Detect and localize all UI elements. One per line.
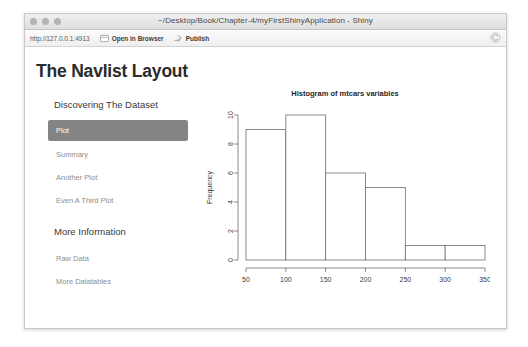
screenshot-root: ~/Desktop/Book/Chapter-4/myFirstShinyApp…	[0, 0, 528, 347]
x-tick-label: 250	[399, 276, 411, 283]
x-tick-label: 350	[479, 276, 490, 283]
browser-window-icon	[100, 34, 109, 43]
navlist-section-header-more-information: More Information	[48, 212, 188, 247]
y-tick-label: 6	[227, 171, 234, 175]
y-tick-label: 8	[227, 142, 234, 146]
window-titlebar: ~/Desktop/Book/Chapter-4/myFirstShinyApp…	[25, 14, 506, 30]
window-title: ~/Desktop/Book/Chapter-4/myFirstShinyApp…	[25, 16, 506, 25]
app-toolbar: http://127.0.0.1:4913 Open in Browser Pu…	[25, 30, 506, 47]
refresh-button[interactable]	[490, 32, 501, 43]
x-tick-label: 50	[242, 276, 250, 283]
refresh-icon	[490, 32, 501, 43]
histogram-bar	[326, 173, 366, 260]
sidebar-item-raw-data[interactable]: Raw Data	[48, 247, 188, 270]
page-title: The Navlist Layout	[36, 61, 188, 82]
publish-arrow-icon	[174, 34, 183, 43]
histogram-bar	[286, 115, 326, 260]
sidebar-item-summary[interactable]: Summary	[48, 143, 188, 166]
publish-label: Publish	[186, 35, 209, 42]
x-tick-label: 150	[320, 276, 332, 283]
x-tick-label: 100	[280, 276, 292, 283]
sidebar-item-even-a-third-plot[interactable]: Even A Third Plot	[48, 189, 188, 212]
open-in-browser-button[interactable]: Open in Browser	[100, 34, 164, 43]
chart-canvas: 024681050100150200250300350Frequency	[200, 87, 490, 297]
histogram-plot: Histogram of mtcars variables 0246810501…	[200, 87, 490, 297]
y-axis-label: Frequency	[206, 170, 214, 204]
shiny-app-window: ~/Desktop/Book/Chapter-4/myFirstShinyApp…	[24, 13, 507, 329]
sidebar-item-another-plot[interactable]: Another Plot	[48, 166, 188, 189]
navlist-panel: Discovering The Dataset Plot Summary Ano…	[48, 99, 188, 293]
x-tick-label: 300	[439, 276, 451, 283]
sidebar-item-plot[interactable]: Plot	[48, 120, 188, 141]
histogram-bar	[445, 246, 485, 261]
y-tick-label: 2	[227, 229, 234, 233]
histogram-bar	[405, 246, 445, 261]
navlist-section-header-discovering: Discovering The Dataset	[48, 99, 188, 120]
y-tick-label: 0	[227, 258, 234, 262]
y-tick-label: 4	[227, 200, 234, 204]
address-label: http://127.0.0.1:4913	[30, 35, 90, 42]
open-in-browser-label: Open in Browser	[112, 35, 164, 42]
histogram-bar	[366, 188, 406, 261]
histogram-bar	[246, 130, 286, 261]
publish-button[interactable]: Publish	[174, 34, 209, 43]
x-tick-label: 200	[360, 276, 372, 283]
app-page: The Navlist Layout Discovering The Datas…	[25, 47, 506, 329]
y-tick-label: 10	[227, 111, 234, 119]
sidebar-item-more-datatables[interactable]: More Datatables	[48, 270, 188, 293]
